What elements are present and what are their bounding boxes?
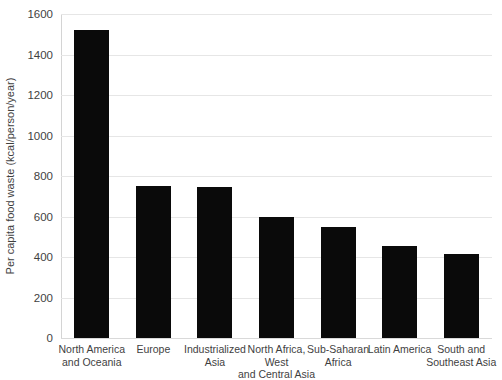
bar [136, 186, 171, 338]
gridline-0 [61, 338, 492, 339]
bar-chart: Per capita food waste (kcal/person/year)… [0, 0, 502, 380]
bar [259, 217, 294, 339]
y-tick-label-1200: 1200 [3, 89, 53, 101]
y-tick-label-200: 200 [3, 292, 53, 304]
bar [382, 246, 417, 338]
bar [444, 254, 479, 338]
y-tick-label-1400: 1400 [3, 49, 53, 61]
x-tick-label: South and Southeast Asia [406, 343, 502, 368]
y-tick-label-800: 800 [3, 170, 53, 182]
bar [74, 30, 109, 338]
gridline-1200 [61, 95, 492, 96]
gridline-800 [61, 176, 492, 177]
gridline-1600 [61, 14, 492, 15]
plot-area [61, 14, 492, 338]
y-tick-label-1600: 1600 [3, 8, 53, 20]
bar [321, 227, 356, 338]
gridline-1000 [61, 136, 492, 137]
gridline-1400 [61, 55, 492, 56]
y-tick-label-600: 600 [3, 211, 53, 223]
y-tick-label-1000: 1000 [3, 130, 53, 142]
y-tick-label-400: 400 [3, 251, 53, 263]
bar [197, 187, 232, 338]
